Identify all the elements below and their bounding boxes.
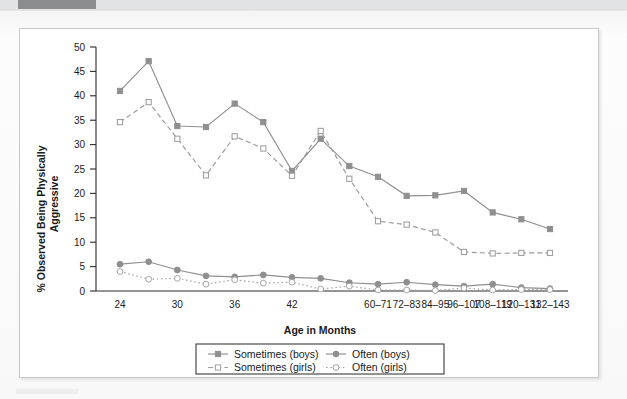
- data-point-marker: [375, 281, 381, 287]
- data-point-marker: [518, 287, 524, 293]
- data-point-marker: [117, 261, 123, 267]
- data-point-marker: [432, 282, 438, 288]
- series-line: [120, 61, 550, 229]
- data-point-marker: [318, 136, 323, 141]
- y-tick-label: 15: [74, 212, 86, 223]
- page-top-band-marker: [18, 0, 96, 9]
- data-point-marker: [289, 173, 294, 178]
- data-point-marker: [547, 250, 552, 255]
- data-point-marker: [547, 226, 552, 231]
- y-axis-title-line1: % Observed Being Physically: [35, 145, 47, 292]
- x-axis-ticks: 2430364260–7172–8384–9596–107108–119120–…: [114, 299, 569, 310]
- data-point-marker: [404, 222, 409, 227]
- data-point-marker: [203, 281, 209, 287]
- y-tick-label: 30: [74, 139, 86, 150]
- data-point-marker: [490, 210, 495, 215]
- data-point-marker: [490, 281, 496, 287]
- data-point-marker: [174, 275, 180, 281]
- chart-canvas: % Observed Being Physically Aggressive A…: [20, 29, 598, 377]
- data-point-marker: [375, 287, 381, 293]
- data-point-marker: [203, 173, 208, 178]
- y-tick-label: 40: [74, 90, 86, 101]
- x-tick-label: 60–71: [364, 299, 392, 310]
- series-2: [117, 100, 552, 256]
- data-point-marker: [215, 365, 220, 370]
- chart-legend: Sometimes (boys)Often (boys)Sometimes (g…: [196, 344, 444, 374]
- data-point-marker: [318, 128, 323, 133]
- data-point-marker: [519, 250, 524, 255]
- data-point-marker: [347, 176, 352, 181]
- series-line: [120, 102, 550, 253]
- data-point-marker: [375, 219, 380, 224]
- x-tick-label: 72–83: [393, 299, 421, 310]
- legend-item-label: Often (boys): [352, 348, 410, 360]
- data-point-marker: [232, 277, 238, 283]
- data-point-marker: [490, 287, 496, 293]
- y-tick-label: 45: [74, 66, 86, 77]
- data-point-marker: [333, 365, 339, 371]
- legend-item-label: Sometimes (boys): [234, 348, 319, 360]
- data-point-marker: [215, 351, 220, 356]
- data-point-marker: [461, 285, 467, 291]
- data-point-marker: [347, 163, 352, 168]
- x-tick-label: 42: [286, 299, 298, 310]
- data-point-marker: [404, 287, 410, 293]
- legend-item-label: Often (girls): [352, 361, 407, 373]
- figure-card: % Observed Being Physically Aggressive A…: [19, 28, 599, 378]
- x-axis-title: Age in Months: [284, 324, 356, 336]
- y-tick-label: 20: [74, 188, 86, 199]
- data-point-marker: [375, 174, 380, 179]
- data-point-marker: [461, 249, 466, 254]
- y-axis-title-line2: Aggressive: [48, 176, 60, 233]
- data-point-marker: [261, 146, 266, 151]
- data-point-marker: [117, 88, 122, 93]
- legend-item-label: Sometimes (girls): [234, 361, 316, 373]
- y-tick-label: 5: [79, 261, 85, 272]
- x-tick-label: 84–95: [421, 299, 449, 310]
- y-tick-label: 35: [74, 115, 86, 126]
- data-point-marker: [490, 251, 495, 256]
- y-tick-label: 0: [79, 286, 85, 297]
- data-point-marker: [117, 120, 122, 125]
- data-point-marker: [333, 351, 339, 357]
- series-3: [117, 259, 553, 292]
- data-point-marker: [433, 230, 438, 235]
- data-point-marker: [318, 275, 324, 281]
- page-bottom-marker: [16, 389, 78, 394]
- x-tick-label: 36: [229, 299, 241, 310]
- data-point-marker: [232, 101, 237, 106]
- data-point-marker: [146, 100, 151, 105]
- y-tick-label: 10: [74, 237, 86, 248]
- series-line: [120, 262, 550, 289]
- data-point-marker: [175, 136, 180, 141]
- data-point-marker: [404, 279, 410, 285]
- data-point-marker: [461, 188, 466, 193]
- data-point-marker: [433, 193, 438, 198]
- y-tick-label: 25: [74, 164, 86, 175]
- data-point-marker: [260, 280, 266, 286]
- x-tick-label: 30: [172, 299, 184, 310]
- data-point-marker: [346, 283, 352, 289]
- data-point-marker: [432, 288, 438, 294]
- y-axis-ticks: 05101520253035404550: [74, 42, 96, 297]
- data-point-marker: [175, 123, 180, 128]
- data-point-marker: [203, 273, 209, 279]
- data-point-marker: [289, 279, 295, 285]
- data-point-marker: [318, 286, 324, 292]
- data-point-marker: [117, 269, 123, 275]
- data-point-marker: [261, 120, 266, 125]
- y-tick-label: 50: [74, 42, 86, 53]
- line-chart: % Observed Being Physically Aggressive A…: [20, 29, 598, 377]
- data-point-marker: [146, 59, 151, 64]
- data-point-marker: [547, 287, 553, 293]
- data-point-marker: [232, 134, 237, 139]
- x-tick-label: 132–143: [531, 299, 570, 310]
- data-point-marker: [146, 276, 152, 282]
- data-point-marker: [203, 124, 208, 129]
- data-point-marker: [174, 267, 180, 273]
- data-point-marker: [404, 193, 409, 198]
- data-point-marker: [260, 272, 266, 278]
- data-series-layer: [117, 59, 553, 294]
- x-tick-label: 24: [114, 299, 126, 310]
- data-point-marker: [519, 217, 524, 222]
